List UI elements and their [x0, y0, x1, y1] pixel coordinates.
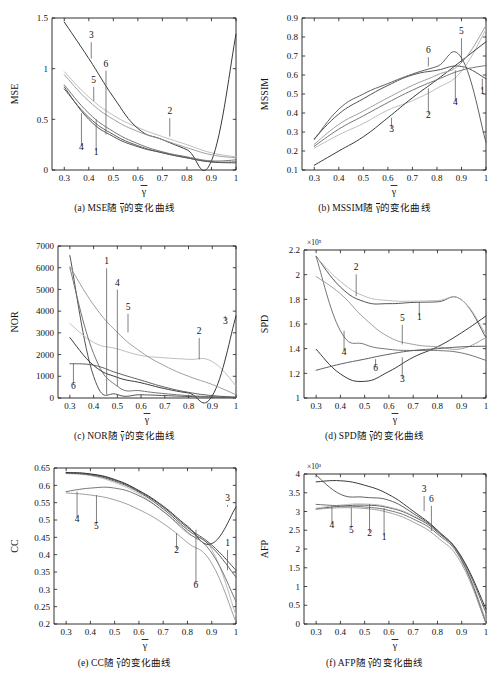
- series-line-6: [64, 89, 236, 162]
- gamma-overbar: γ: [368, 658, 372, 668]
- y-tick-label: 1.4: [289, 344, 301, 354]
- x-tick-label: 0.9: [206, 627, 218, 637]
- curve-group: [66, 473, 236, 623]
- series-line-1: [316, 256, 486, 337]
- y-tick-label: 0.4: [287, 108, 299, 118]
- series-line-3: [314, 42, 486, 166]
- svg-text:γ: γ: [141, 186, 147, 197]
- x-tick-label: 0.3: [59, 173, 71, 183]
- series-annotation-2: 2: [167, 106, 172, 116]
- series-annotation-5: 5: [126, 302, 131, 312]
- series-annotation-3: 3: [225, 493, 230, 503]
- x-tick-label: 0.9: [456, 627, 468, 637]
- x-tick-label: 0.5: [359, 627, 371, 637]
- y-tick-label: 1.2: [289, 369, 300, 379]
- x-tick-label: 0.7: [408, 401, 420, 411]
- x-tick-label: 0.5: [108, 173, 120, 183]
- figure-root: 0.30.40.50.60.70.80.9100.511.5MSEγ365412…: [0, 0, 499, 686]
- series-annotation-6: 6: [429, 494, 434, 504]
- y-axis-label: SPD: [259, 315, 270, 333]
- series-annotation-1: 1: [104, 256, 109, 266]
- chart-panel-afp: 0.30.40.50.60.70.80.9100.511.522.533.54×…: [250, 452, 499, 686]
- chart-panel-spd: 0.30.40.50.60.70.80.9111.21.41.61.822.2×…: [250, 228, 499, 456]
- series-line-2: [314, 29, 486, 148]
- x-tick-label: 0.3: [311, 401, 323, 411]
- caption-text: (a) MSE随 γ的变化曲线: [74, 200, 175, 214]
- y-axis-label: AFP: [259, 539, 270, 558]
- x-axis-label: γ: [141, 186, 148, 198]
- series-annotation-1: 1: [94, 147, 99, 157]
- caption-nor: (c) NOR随 γ的变化曲线: [0, 428, 249, 442]
- series-annotation-2: 2: [174, 545, 179, 555]
- y-tick-label: 0.1: [287, 165, 298, 175]
- plot-mssim: 0.30.40.50.60.70.80.910.10.20.30.40.50.6…: [250, 0, 499, 200]
- x-tick-label: 0.7: [159, 401, 171, 411]
- y-tick-label: 1: [296, 393, 301, 403]
- svg-text:γ: γ: [391, 186, 397, 197]
- series-line-3: [316, 481, 486, 609]
- chart-panel-mse: 0.30.40.50.60.70.80.9100.511.5MSEγ365412: [0, 0, 249, 228]
- series-line-4: [316, 504, 486, 623]
- y-tick-label: 0.5: [287, 89, 299, 99]
- x-tick-label: 0.6: [382, 173, 394, 183]
- x-tick-label: 0.8: [432, 627, 444, 637]
- series-annotation-1: 1: [480, 86, 485, 96]
- x-tick-label: 0.4: [335, 401, 347, 411]
- x-tick-label: 0.7: [407, 173, 419, 183]
- x-tick-label: 0.7: [408, 627, 420, 637]
- series-line-5: [316, 508, 486, 624]
- x-tick-label: 0.7: [157, 173, 169, 183]
- series-annotation-6: 6: [373, 363, 378, 373]
- series-line-4: [70, 268, 236, 397]
- x-tick-label: 0.6: [383, 627, 395, 637]
- y-tick-label: 0.2: [287, 146, 298, 156]
- x-tick-label: 0.9: [456, 401, 468, 411]
- x-tick-label: 0.9: [456, 173, 468, 183]
- tick-group: 0.30.40.50.60.70.80.91010002000300040005…: [36, 241, 238, 410]
- axes-frame: [54, 468, 236, 624]
- series-annotation-5: 5: [349, 525, 354, 535]
- x-tick-label: 0.6: [135, 401, 147, 411]
- series-annotation-4: 4: [115, 278, 120, 288]
- y-tick-label: 1: [296, 582, 301, 592]
- series-line-5: [70, 266, 236, 394]
- curve-group: [316, 475, 486, 624]
- plot-nor: 0.30.40.50.60.70.80.91010002000300040005…: [0, 228, 249, 428]
- y-axis-exponent: ×10³: [307, 462, 322, 471]
- plot-cc: 0.30.40.50.60.70.80.910.20.250.30.350.40…: [0, 452, 249, 655]
- x-tick-label: 0.3: [61, 627, 73, 637]
- y-axis-label: MSE: [9, 84, 20, 105]
- y-axis-exponent: ×10⁵: [307, 238, 322, 247]
- y-tick-label: 1.5: [37, 13, 49, 23]
- y-axis-label: CC: [9, 539, 20, 553]
- series-annotation-5: 5: [459, 26, 464, 36]
- y-tick-label: 0.25: [34, 602, 50, 612]
- caption-text: (c) NOR随 γ的变化曲线: [74, 428, 175, 442]
- x-tick-label: 1: [234, 627, 239, 637]
- series-annotation-4: 4: [453, 97, 458, 107]
- y-tick-label: 0.55: [34, 498, 50, 508]
- x-tick-label: 0.7: [158, 627, 170, 637]
- plot-afp: 0.30.40.50.60.70.80.9100.511.522.533.54×…: [250, 452, 499, 655]
- series-line-1: [314, 66, 486, 139]
- series-annotation-2: 2: [354, 262, 359, 272]
- series-line-1: [70, 256, 236, 398]
- y-tick-label: 2.5: [289, 525, 301, 535]
- gamma-overbar: γ: [376, 203, 380, 213]
- x-tick-label: 0.8: [432, 401, 444, 411]
- caption-text: (f) AFP随 γ的变化曲线: [326, 655, 423, 669]
- axes-frame: [304, 474, 486, 624]
- x-tick-label: 0.9: [206, 173, 218, 183]
- chart-panel-nor: 0.30.40.50.60.70.80.91010002000300040005…: [0, 228, 249, 456]
- y-tick-label: 0.6: [39, 481, 51, 491]
- series-line-4: [316, 257, 486, 361]
- x-tick-label: 0.3: [311, 627, 323, 637]
- x-tick-label: 1: [234, 401, 239, 411]
- x-tick-label: 0.4: [335, 627, 347, 637]
- caption-spd: (d) SPD随 γ的变化曲线: [250, 428, 499, 442]
- y-tick-label: 0.2: [39, 619, 50, 629]
- series-annotation-1: 1: [382, 532, 387, 542]
- y-tick-label: 0.45: [34, 533, 50, 543]
- series-annotation-3: 3: [400, 374, 405, 384]
- x-tick-label: 0.8: [181, 173, 193, 183]
